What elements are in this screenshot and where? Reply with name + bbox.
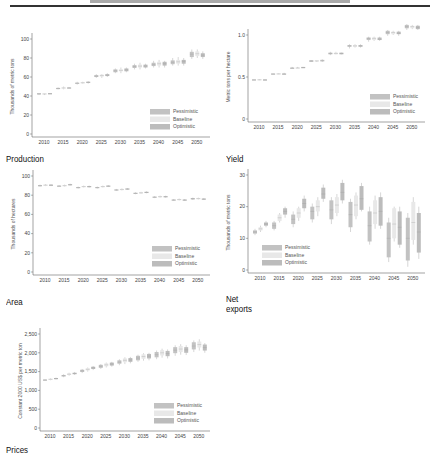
box-optimistic	[360, 183, 364, 212]
x-tick-label: 2050	[407, 275, 418, 281]
y-tick-label: 0	[242, 267, 245, 273]
box-baseline	[372, 37, 376, 41]
legend: PessimisticBaselineOptimistic	[154, 402, 203, 423]
legend-label: Pessimistic	[177, 402, 203, 408]
x-tick-label: 2025	[311, 124, 322, 130]
box-baseline	[139, 192, 143, 194]
legend-label: Baseline	[285, 252, 304, 258]
box-pessimistic	[117, 359, 121, 365]
legend-label: Baseline	[173, 116, 192, 122]
box-pessimistic	[367, 37, 371, 42]
x-tick-label: 2045	[175, 433, 186, 439]
box-optimistic	[110, 362, 114, 367]
box-optimistic	[339, 53, 343, 55]
box-pessimistic	[271, 74, 275, 75]
box-baseline	[197, 339, 201, 350]
box-baseline	[157, 60, 161, 68]
x-tick-label: 2030	[116, 277, 127, 283]
y-tick-label: 60	[24, 211, 30, 217]
box-pessimistic	[328, 52, 332, 55]
box-pessimistic	[43, 379, 47, 381]
box-optimistic	[106, 185, 110, 187]
legend-label: Optimistic	[173, 123, 195, 129]
legend-swatch	[154, 403, 174, 409]
y-axis-label: Thousands of hectares	[10, 198, 16, 249]
x-tick-label: 2040	[369, 275, 380, 281]
chart-title: Production	[6, 154, 44, 164]
y-tick-label: 0	[242, 116, 245, 122]
x-tick-label: 2035	[135, 277, 146, 283]
box-pessimistic	[152, 61, 156, 68]
box-optimistic	[398, 207, 402, 248]
x-tick-label: 2040	[368, 124, 379, 130]
box-baseline	[278, 213, 282, 223]
box-baseline	[43, 93, 47, 95]
y-tick-label: 20	[239, 203, 245, 209]
box-baseline	[391, 31, 395, 35]
legend-label: Optimistic	[175, 260, 197, 266]
y-tick-label: 0	[26, 131, 29, 137]
legend: PessimisticBaselineOptimistic	[152, 245, 201, 266]
box-pessimistic	[310, 204, 314, 223]
box-optimistic	[67, 87, 71, 89]
box-pessimistic	[99, 364, 103, 369]
x-tick-label: 2025	[97, 277, 108, 283]
box-optimistic	[145, 191, 149, 193]
legend-label: Baseline	[175, 253, 194, 259]
x-tick-label: 2010	[44, 433, 55, 439]
x-tick-label: 2045	[387, 124, 398, 130]
box-optimistic	[417, 207, 421, 259]
box-pessimistic	[291, 211, 295, 227]
box-baseline	[81, 82, 85, 84]
box-baseline	[63, 185, 67, 187]
x-tick-label: 2020	[293, 275, 304, 281]
box-baseline	[296, 67, 300, 69]
x-tick-label: 2050	[192, 277, 203, 283]
box-optimistic	[202, 198, 206, 200]
box-baseline	[123, 357, 127, 364]
box-baseline	[410, 25, 414, 29]
box-baseline	[62, 87, 66, 90]
box-pessimistic	[191, 198, 195, 200]
y-tick-label: 1.0	[238, 32, 245, 38]
box-pessimistic	[290, 67, 294, 69]
x-tick-label: 2050	[406, 124, 417, 130]
box-baseline	[120, 188, 124, 190]
box-pessimistic	[171, 58, 175, 66]
box-baseline	[373, 196, 377, 229]
box-optimistic	[378, 37, 382, 41]
y-tick-label: 80	[23, 55, 29, 61]
box-pessimistic	[309, 60, 313, 62]
y-tick-label: 2,500	[24, 331, 37, 337]
box-pessimistic	[253, 229, 257, 235]
box-optimistic	[125, 188, 129, 190]
x-tick-label: 2020	[77, 139, 88, 145]
box-pessimistic	[349, 199, 353, 232]
box-pessimistic	[155, 351, 159, 360]
box-baseline	[67, 373, 71, 376]
x-tick-label: 2035	[134, 139, 145, 145]
x-tick-label: 2040	[153, 139, 164, 145]
y-tick-label: 100	[22, 173, 31, 179]
box-optimistic	[182, 58, 186, 66]
box-pessimistic	[56, 87, 60, 89]
box-baseline	[119, 68, 123, 74]
box-baseline	[334, 52, 338, 55]
box-optimistic	[283, 207, 287, 218]
x-tick-label: 2025	[96, 139, 107, 145]
box-baseline	[49, 378, 53, 380]
box-baseline	[179, 344, 183, 355]
y-axis-label: Constant 2000 US$ per metric ton	[17, 343, 23, 419]
box-pessimistic	[94, 74, 98, 78]
legend-swatch	[150, 109, 170, 115]
box-baseline	[158, 196, 162, 198]
box-optimistic	[321, 185, 325, 202]
box-pessimistic	[75, 82, 79, 85]
legend-swatch	[262, 245, 282, 251]
y-tick-label: 60	[23, 74, 29, 80]
y-tick-label: 80	[24, 192, 30, 198]
box-baseline	[100, 74, 104, 78]
box-baseline	[353, 44, 357, 47]
x-tick-label: 2020	[292, 124, 303, 130]
box-pessimistic	[76, 187, 80, 189]
